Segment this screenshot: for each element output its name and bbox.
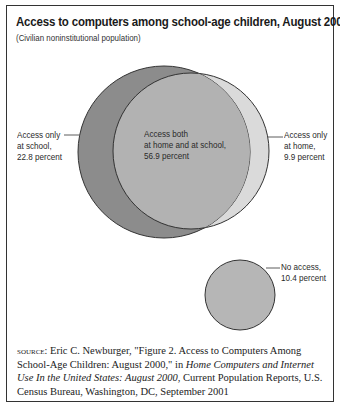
- label-no-access: No access, 10.4 percent: [281, 262, 326, 284]
- label-both: Access both at home and at school, 56.9 …: [144, 129, 226, 162]
- source-citation: source: Eric C. Newburger, "Figure 2. Ac…: [17, 344, 329, 398]
- label-line: 10.4 percent: [281, 273, 326, 284]
- label-line: at school,: [17, 141, 62, 152]
- label-school-only: Access only at school, 22.8 percent: [17, 130, 62, 163]
- no-access-circle: [205, 260, 275, 330]
- label-line: Access both: [144, 129, 226, 140]
- label-line: 9.9 percent: [284, 152, 327, 163]
- label-line: Access only: [284, 130, 327, 141]
- label-home-only: Access only at home, 9.9 percent: [284, 130, 327, 163]
- source-prefix: source:: [17, 345, 47, 356]
- label-line: Access only: [17, 130, 62, 141]
- label-line: 56.9 percent: [144, 151, 226, 162]
- label-line: at home and at school,: [144, 140, 226, 151]
- label-line: at home,: [284, 141, 327, 152]
- label-line: 22.8 percent: [17, 152, 62, 163]
- label-line: No access,: [281, 262, 326, 273]
